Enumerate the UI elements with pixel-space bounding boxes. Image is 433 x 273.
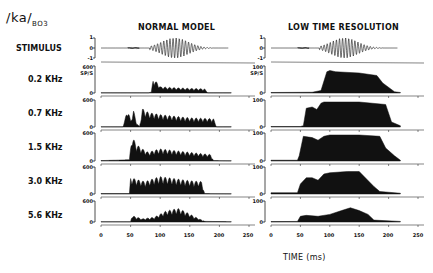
plot-canvas [0,0,433,273]
